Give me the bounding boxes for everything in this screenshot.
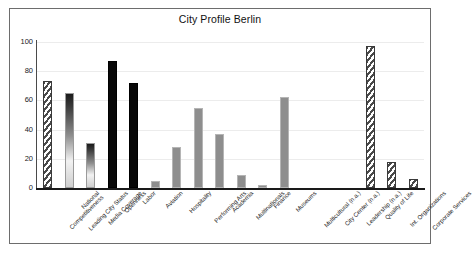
- y-tick-label: 0: [29, 184, 33, 192]
- bar[interactable]: [129, 83, 138, 188]
- bar-slot[interactable]: [123, 42, 145, 188]
- bar[interactable]: [151, 181, 160, 188]
- y-tick-label: 60: [25, 97, 33, 105]
- bar-slot[interactable]: [360, 42, 382, 188]
- bar[interactable]: [366, 46, 375, 188]
- bar[interactable]: [387, 162, 396, 188]
- bar-slot[interactable]: [403, 42, 425, 188]
- bar-slot[interactable]: [59, 42, 81, 188]
- bar[interactable]: [237, 175, 246, 188]
- bar[interactable]: [194, 108, 203, 188]
- bar[interactable]: [172, 147, 181, 188]
- bar-slot[interactable]: [209, 42, 231, 188]
- bar[interactable]: [65, 93, 74, 188]
- bar[interactable]: [86, 143, 95, 188]
- bar[interactable]: [280, 97, 289, 188]
- bar-slot[interactable]: [166, 42, 188, 188]
- bar-slot[interactable]: [338, 42, 360, 188]
- bar-slot[interactable]: [295, 42, 317, 188]
- bar-slot[interactable]: [252, 42, 274, 188]
- plot-area: [37, 42, 424, 188]
- bar[interactable]: [258, 185, 267, 188]
- bar-slot[interactable]: [37, 42, 59, 188]
- y-tick-label: 40: [25, 126, 33, 134]
- bar-slot[interactable]: [145, 42, 167, 188]
- y-tick-label: 20: [25, 155, 33, 163]
- chart-title: City Profile Berlin: [0, 13, 440, 25]
- y-tick-label: 100: [20, 38, 33, 46]
- y-tick-label: 80: [25, 67, 33, 75]
- bar-slot[interactable]: [80, 42, 102, 188]
- bar[interactable]: [409, 179, 418, 188]
- bar-slot[interactable]: [231, 42, 253, 188]
- bar-slot[interactable]: [102, 42, 124, 188]
- bar[interactable]: [43, 81, 52, 188]
- bar-slot[interactable]: [274, 42, 296, 188]
- bar-slot[interactable]: [317, 42, 339, 188]
- bar[interactable]: [215, 134, 224, 188]
- bar[interactable]: [108, 61, 117, 188]
- bar-slot[interactable]: [381, 42, 403, 188]
- y-axis-tick-labels: 020406080100: [0, 0, 33, 253]
- bar-slot[interactable]: [188, 42, 210, 188]
